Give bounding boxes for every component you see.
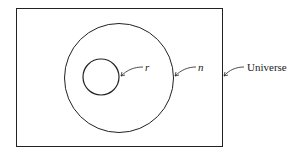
arrow-universe-icon (224, 67, 244, 76)
set-r-circle (83, 59, 119, 95)
label-universe: Universe (247, 62, 287, 73)
label-n: n (198, 62, 204, 73)
venn-diagram (0, 0, 294, 154)
arrow-n-icon (175, 67, 196, 76)
label-r: r (145, 62, 149, 73)
arrow-r-icon (121, 67, 143, 76)
